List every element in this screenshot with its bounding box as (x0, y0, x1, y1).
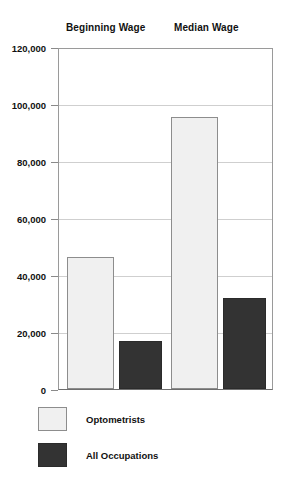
y-tick-mark-20000 (51, 333, 58, 334)
legend: Optometrists All Occupations (38, 407, 268, 479)
y-tick-mark-40000 (51, 276, 58, 277)
group-header-median-wage: Median Wage (174, 22, 239, 33)
legend-label-optometrists: Optometrists (86, 414, 145, 425)
legend-swatch-all-occupations (38, 443, 67, 467)
y-tick-mark-120000 (51, 48, 58, 49)
legend-swatch-optometrists (38, 407, 67, 431)
y-axis: 120,000 100,000 80,000 60,000 40,000 20,… (0, 48, 58, 390)
y-tick-mark-100000 (51, 105, 58, 106)
gridline-100000 (59, 105, 272, 106)
legend-item-optometrists: Optometrists (38, 407, 268, 434)
bar-median-wage-all-occupations (223, 298, 266, 389)
bar-median-wage-optometrists (171, 117, 218, 389)
y-tick-label-120000: 120,000 (12, 43, 46, 54)
group-header-beginning-wage: Beginning Wage (66, 22, 145, 33)
legend-label-all-occupations: All Occupations (86, 450, 158, 461)
bar-beginning-wage-all-occupations (119, 341, 162, 389)
bar-beginning-wage-optometrists (67, 257, 114, 389)
y-tick-mark-80000 (51, 162, 58, 163)
y-tick-label-80000: 80,000 (17, 157, 46, 168)
y-tick-label-40000: 40,000 (17, 271, 46, 282)
y-tick-mark-60000 (51, 219, 58, 220)
y-tick-label-100000: 100,000 (12, 100, 46, 111)
group-header-row: Beginning Wage Median Wage (58, 22, 273, 40)
y-tick-label-60000: 60,000 (17, 214, 46, 225)
plot-area (58, 48, 273, 390)
gridline-60000 (59, 219, 272, 220)
legend-item-all-occupations: All Occupations (38, 443, 268, 470)
bar-chart: Beginning Wage Median Wage 120,000 100,0… (0, 0, 293, 485)
y-tick-mark-0 (51, 390, 58, 391)
y-tick-label-20000: 20,000 (17, 328, 46, 339)
y-tick-label-0: 0 (41, 385, 46, 396)
gridline-80000 (59, 162, 272, 163)
